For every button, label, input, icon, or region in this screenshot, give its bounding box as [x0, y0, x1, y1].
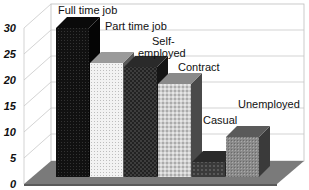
- label-casual: Casual: [203, 114, 237, 126]
- left-wall: [24, 4, 51, 184]
- label-unemployed: Unemployed: [238, 98, 300, 110]
- bar-unemployed: [226, 126, 270, 177]
- y-tick-20: 20: [3, 74, 17, 86]
- label-full-time-job: Full time job: [58, 4, 117, 16]
- y-axis: 0 5 10 15 20 25 30: [3, 22, 17, 190]
- y-tick-30: 30: [4, 22, 17, 34]
- bar-chart-3d: 0 5 10 15 20 25 30: [0, 0, 309, 190]
- y-tick-10: 10: [4, 126, 17, 138]
- label-self-employed-line2: employed: [138, 47, 186, 59]
- label-contract: Contract: [178, 61, 220, 73]
- label-part-time-job: Part time job: [105, 20, 167, 32]
- label-self-employed-line1: Self-: [152, 35, 175, 47]
- y-tick-5: 5: [10, 152, 17, 164]
- y-tick-25: 25: [3, 48, 17, 60]
- y-tick-15: 15: [4, 100, 17, 112]
- y-tick-0: 0: [10, 178, 17, 190]
